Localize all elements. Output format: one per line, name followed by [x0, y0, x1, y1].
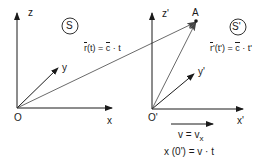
z-axis-label: z	[28, 8, 33, 18]
x-prime-axis-label: x'	[237, 116, 244, 126]
y-prime-axis-label: y'	[198, 67, 205, 77]
position-vector-s-prime: r'(t') = c · t'	[210, 44, 252, 53]
point-a	[194, 19, 198, 23]
frame-s-axes	[17, 13, 112, 108]
diagram-canvas: z S y x O r(t) = c · t z' A S' r'(t') = …	[0, 0, 264, 166]
displacement-equation: x (0') = v · t	[164, 147, 214, 157]
vector-r-prime	[152, 22, 196, 109]
x-axis-label: x	[107, 116, 112, 126]
frame-s-prime-label: S'	[232, 22, 241, 32]
origin-o-prime-label: O'	[148, 113, 158, 123]
position-vector-s: r(t) = c · t	[84, 44, 121, 53]
diagram-lines	[0, 0, 264, 166]
frame-s-label: S	[66, 21, 73, 31]
velocity-equation: v = vx	[178, 130, 203, 143]
point-a-label: A	[192, 8, 199, 18]
z-prime-axis-label: z'	[162, 9, 169, 19]
origin-o-label: O	[14, 113, 22, 123]
y-axis-label: y	[62, 63, 67, 73]
